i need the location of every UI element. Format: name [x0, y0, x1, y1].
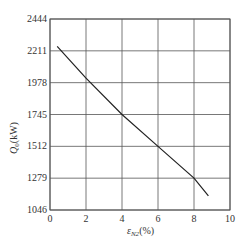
y-tick-label: 2444: [27, 13, 47, 24]
svg-text:εN2(%): εN2(%): [127, 225, 154, 238]
x-tick-label: 8: [192, 213, 197, 224]
svg-text:Q0(kW): Q0(kW): [8, 122, 21, 154]
x-tick-label: 0: [48, 213, 53, 224]
y-tick-label: 1745: [27, 109, 47, 120]
x-axis-label: εN2(%): [127, 225, 154, 238]
y-tick-label: 1978: [27, 77, 47, 88]
y-tick-label: 1512: [27, 140, 47, 151]
y-axis-label: Q0(kW): [8, 122, 21, 154]
y-tick-label: 2211: [27, 45, 47, 56]
data-line: [57, 46, 208, 195]
y-tick-labels: 1046127915121745197822112444: [27, 13, 47, 215]
x-tick-label: 2: [84, 213, 89, 224]
x-tick-labels: 0246810: [48, 213, 236, 224]
line-chart: 1046127915121745197822112444 0246810 εN2…: [0, 0, 245, 251]
y-tick-label: 1046: [27, 204, 47, 215]
x-tick-label: 10: [225, 213, 235, 224]
x-tick-label: 6: [156, 213, 161, 224]
x-tick-label: 4: [120, 213, 125, 224]
grid-lines: [50, 19, 230, 210]
y-tick-label: 1279: [27, 172, 47, 183]
